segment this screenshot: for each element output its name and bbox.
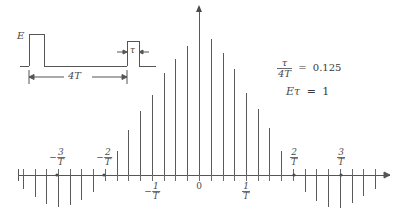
duty-cycle-fraction: τ 4T xyxy=(277,58,292,79)
axis-label-denominator: T xyxy=(57,158,65,167)
pulse-area-equals: = xyxy=(307,85,316,98)
axis-label-marker xyxy=(292,173,295,176)
axis-label-sign: − xyxy=(96,152,104,162)
axis-tick-label: 0 xyxy=(196,182,202,191)
axis-tick-label: 2T xyxy=(290,148,298,167)
axis-label-marker xyxy=(102,173,105,176)
axis-label-denominator: T xyxy=(242,192,250,201)
axis-tick-label: −1T xyxy=(144,182,160,201)
duty-cycle-denominator: 4T xyxy=(277,69,292,79)
duty-cycle-equals: = xyxy=(298,62,306,73)
pulse-period-label: 4T xyxy=(68,71,81,81)
axis-tick-label: 3T xyxy=(337,148,345,167)
pulse-area-value: 1 xyxy=(322,85,329,98)
axis-label-fraction: 2T xyxy=(104,148,112,167)
axis-label-denominator: T xyxy=(104,158,112,167)
axis-label-sign: − xyxy=(144,186,152,196)
pulse-width-label: τ xyxy=(130,46,135,55)
duty-cycle-equation: τ 4T = 0.125 xyxy=(277,58,341,79)
pulse-area-expression: Eτ xyxy=(286,85,300,98)
axis-label-fraction: 2T xyxy=(290,148,298,167)
axis-label-fraction: 1T xyxy=(152,182,160,201)
axis-tick-label: 1T xyxy=(242,182,250,201)
center-arrow-head-shape xyxy=(196,5,202,12)
axis-label-fraction: 3T xyxy=(57,148,65,167)
center-line-arrowhead xyxy=(196,5,202,12)
axis-label-fraction: 1T xyxy=(242,182,250,201)
axis-tick-label: −2T xyxy=(96,148,112,167)
pulse-area-equation: Eτ = 1 xyxy=(286,85,329,98)
figure-canvas: E τ 4T τ 4T = 0.125 Eτ = 1 −3T−2T−1T01T2… xyxy=(0,0,403,219)
duty-cycle-value: 0.125 xyxy=(313,62,342,73)
pulse-train-diagram xyxy=(20,34,156,66)
pulse-first xyxy=(29,34,44,66)
tau-arrow-right-head xyxy=(139,50,143,54)
axis-label-fraction: 3T xyxy=(337,148,345,167)
pulse-amplitude-label: E xyxy=(17,31,24,41)
period-arrow-right-head xyxy=(122,75,127,80)
tau-arrow-left-head xyxy=(123,50,127,54)
axis-label-denominator: T xyxy=(152,192,160,201)
axis-label-sign: − xyxy=(49,152,57,162)
axis-tick-label: −3T xyxy=(49,148,65,167)
axis-arrowhead xyxy=(384,172,390,178)
frequency-axis xyxy=(18,169,390,181)
period-arrow-left-head xyxy=(29,75,34,80)
axis-label-denominator: T xyxy=(337,158,345,167)
axis-label-denominator: T xyxy=(290,158,298,167)
